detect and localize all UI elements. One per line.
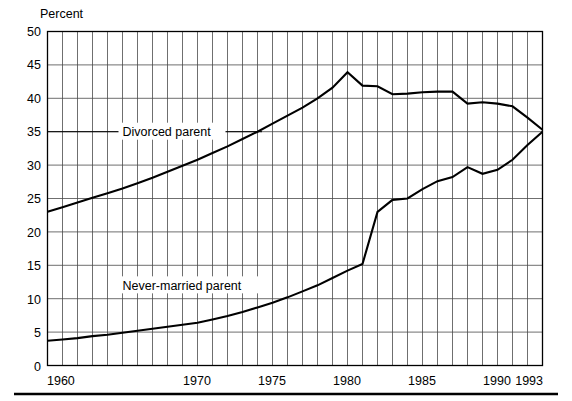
x-tick-label: 1985	[408, 374, 436, 388]
x-tick-label: 1980	[333, 374, 361, 388]
y-tick-label: 5	[34, 326, 41, 340]
y-axis-title: Percent	[40, 7, 84, 21]
y-tick-label: 50	[27, 25, 41, 39]
x-tick-label: 1990	[483, 374, 511, 388]
x-tick-label: 1970	[183, 374, 211, 388]
y-tick-label: 20	[27, 226, 41, 240]
x-tick-label: 1975	[258, 374, 286, 388]
y-tick-label: 45	[27, 58, 41, 72]
x-tick-label: 1993	[515, 374, 543, 388]
y-tick-label: 15	[27, 259, 41, 273]
data-series-group	[48, 72, 543, 341]
series-annotation-label: Divorced parent	[123, 125, 212, 139]
series-line-never-married-parent	[48, 132, 543, 341]
line-chart: Percent 50 45 40 35 30 25 20 15 10 5 0 D…	[0, 0, 572, 401]
horizontal-gridlines	[48, 32, 543, 366]
y-tick-label: 30	[27, 159, 41, 173]
x-axis-ticks: 1960 1970 1975 1980 1985 1990 1993	[47, 374, 543, 388]
y-tick-label: 40	[27, 92, 41, 106]
chart-figure: Percent 50 45 40 35 30 25 20 15 10 5 0 D…	[0, 0, 572, 401]
x-tick-label: 1960	[47, 374, 75, 388]
y-tick-label: 10	[27, 293, 41, 307]
y-axis-ticks: 50 45 40 35 30 25 20 15 10 5 0	[27, 25, 41, 374]
y-tick-label: 0	[34, 360, 41, 374]
y-tick-label: 25	[27, 192, 41, 206]
series-annotation-label: Never-married parent	[123, 279, 242, 293]
series-annotations: Divorced parentNever-married parent	[48, 123, 263, 294]
y-tick-label: 35	[27, 125, 41, 139]
series-line-divorced-parent	[48, 72, 543, 212]
